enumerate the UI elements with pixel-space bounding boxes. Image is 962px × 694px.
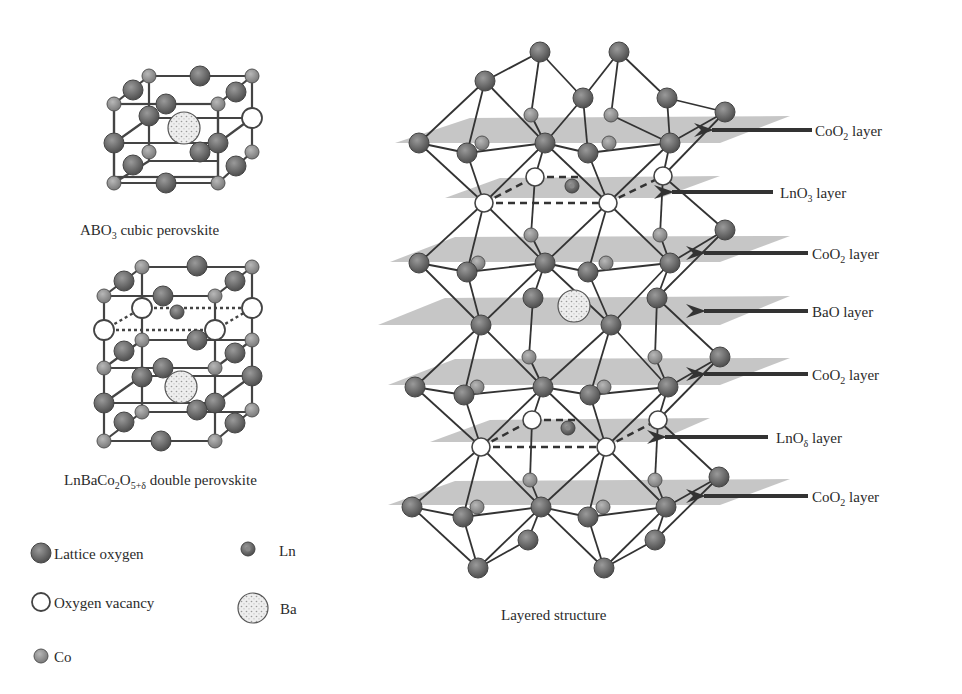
layer-label-lnodelta: LnOδ layer [665,430,842,449]
layer-label-lno3: LnO3 layer [672,185,846,204]
oxygen-vacancy-icon [32,593,50,611]
svg-text:Co: Co [54,649,72,665]
lattice-oxygen-icon [31,543,51,563]
svg-text:LnO3 layer: LnO3 layer [780,185,846,204]
svg-text:LnOδ layer: LnOδ layer [776,430,842,449]
cubic-perovskite-caption: ABO3 cubic perovskite [80,222,219,241]
perovskite-diagram: ABO3 cubic perovskite [0,0,962,694]
legend-item-co: Co [34,649,72,665]
svg-text:Lattice oxygen: Lattice oxygen [54,546,144,562]
layered-structure-caption: Layered structure [501,607,607,623]
legend-item-oxygen-vacancy: Oxygen vacancy [32,593,155,611]
cubic-perovskite-cell [104,66,262,193]
svg-text:Ba: Ba [280,601,297,617]
ba-icon [238,593,268,623]
double-perovskite-cell [94,256,262,451]
legend-item-lattice-oxygen: Lattice oxygen [31,543,144,563]
double-perovskite-caption: LnBaCo2O5+δ double perovskite [64,472,257,491]
legend-item-ba: Ba [238,593,297,623]
legend-item-ln: Ln [241,542,296,559]
svg-text:CoO2 layer: CoO2 layer [812,489,879,508]
legend: Lattice oxygen Ln Oxygen vacancy Ba Co [31,542,297,665]
svg-text:BaO layer: BaO layer [812,304,873,320]
co-icon [34,649,48,663]
svg-text:CoO2 layer: CoO2 layer [812,246,879,265]
svg-text:CoO2 layer: CoO2 layer [812,367,879,386]
svg-text:CoO2 layer: CoO2 layer [815,123,882,142]
svg-text:Ln: Ln [279,543,296,559]
svg-text:Oxygen vacancy: Oxygen vacancy [54,595,155,611]
